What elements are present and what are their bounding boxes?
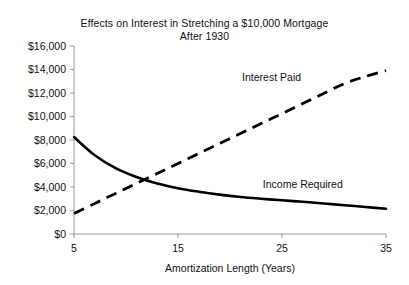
x-axis-tick-label: 5 — [71, 242, 77, 254]
y-axis-tick-group: $0$2,000$4,000$6,000$8,000$10,000$12,000… — [28, 40, 74, 240]
y-axis-tick-label: $4,000 — [34, 181, 66, 193]
x-axis-title: Amortization Length (Years) — [165, 262, 295, 274]
chart-plot-area: $0$2,000$4,000$6,000$8,000$10,000$12,000… — [0, 0, 409, 285]
y-axis-tick-label: $6,000 — [34, 157, 66, 169]
x-axis-tick-label: 15 — [172, 242, 184, 254]
x-axis-tick-group: 5152535 — [71, 234, 392, 254]
series-line-interest-paid — [74, 71, 386, 214]
x-axis-tick-label: 25 — [276, 242, 288, 254]
chart-container: Effects on Interest in Stretching a $10,… — [0, 0, 409, 285]
y-axis-tick-label: $2,000 — [34, 204, 66, 216]
y-axis-tick-label: $8,000 — [34, 134, 66, 146]
y-axis-tick-label: $16,000 — [28, 40, 66, 52]
series-line-income-required — [74, 137, 386, 209]
y-axis-tick-label: $14,000 — [28, 63, 66, 75]
y-axis-tick-label: $12,000 — [28, 87, 66, 99]
x-axis-tick-label: 35 — [380, 242, 392, 254]
y-axis-tick-label: $10,000 — [28, 110, 66, 122]
y-axis-tick-label: $0 — [54, 228, 66, 240]
series-label-interest-paid: Interest Paid — [242, 71, 301, 83]
series-label-income-required: Income Required — [263, 178, 343, 190]
